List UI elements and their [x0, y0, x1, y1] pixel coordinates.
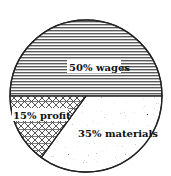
label-materials: 35% materials	[78, 128, 158, 139]
label-wages: 50% wages	[69, 62, 130, 73]
slice-wages	[10, 20, 162, 96]
label-profit: 15% profit	[13, 110, 71, 121]
pie-chart: 50% wages 15% profit 35% materials	[0, 0, 171, 176]
